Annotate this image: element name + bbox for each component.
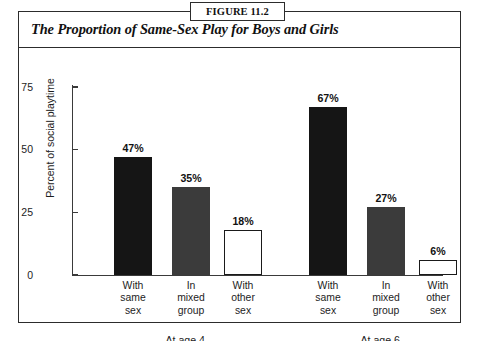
x-axis-category-label: Inmixedgroup	[161, 280, 221, 317]
x-axis-category-label: Withothersex	[408, 280, 468, 317]
bar	[367, 207, 405, 275]
x-axis-category-label: Withothersex	[213, 280, 273, 317]
x-axis-category-label-line: other	[213, 292, 273, 304]
x-axis-category-label-line: sex	[298, 305, 358, 317]
x-axis-group-label-text: At age 4	[165, 334, 204, 341]
x-axis-category-label: Withsamesex	[103, 280, 163, 317]
x-axis-category-label-line: With	[103, 280, 163, 292]
bars-layer: 47%35%18%67%27%6%	[19, 48, 462, 276]
bar-value-label: 35%	[161, 173, 221, 184]
x-axis-category-label-line: sex	[213, 305, 273, 317]
bar-value-label: 18%	[213, 216, 273, 227]
x-axis-category-label-line: other	[408, 292, 468, 304]
bar-value-label: 47%	[103, 143, 163, 154]
x-axis-category-label-line: same	[298, 292, 358, 304]
x-axis-category-label-line: sex	[103, 305, 163, 317]
bar	[224, 230, 262, 275]
bar	[172, 187, 210, 275]
bar	[309, 107, 347, 275]
x-axis-category-label-line: group	[161, 305, 221, 317]
bar-value-label: 6%	[408, 246, 468, 257]
x-axis-category-label: Withsamesex	[298, 280, 358, 317]
x-axis-category-label-line: group	[356, 305, 416, 317]
x-axis-category-label-line: With	[213, 280, 273, 292]
figure-number-label: FIGURE 11.2	[206, 6, 269, 17]
figure-frame: The Proportion of Same-Sex Play for Boys…	[18, 11, 461, 323]
x-axis-category-label-line: With	[298, 280, 358, 292]
x-axis-group-label: At age 412	[113, 334, 263, 341]
bar-value-label: 27%	[356, 193, 416, 204]
page-title: The Proportion of Same-Sex Play for Boys…	[19, 21, 339, 38]
x-axis-category-label: Inmixedgroup	[356, 280, 416, 317]
x-axis-category-label-line: same	[103, 292, 163, 304]
x-axis-category-label-line: In	[356, 280, 416, 292]
x-axis-category-label-line: sex	[408, 305, 468, 317]
plot-region: Percent of social playtime 0255075 47%35…	[19, 48, 462, 322]
x-axis-category-label-line: mixed	[161, 292, 221, 304]
bar	[114, 157, 152, 275]
figure-number-tab: FIGURE 11.2	[190, 2, 285, 21]
bar-value-label: 67%	[298, 93, 358, 104]
x-axis-category-label-line: In	[161, 280, 221, 292]
x-axis-group-label: At age 612	[308, 334, 458, 341]
x-axis-group-label-text: At age 6	[360, 334, 399, 341]
figure-root: The Proportion of Same-Sex Play for Boys…	[0, 0, 477, 341]
x-axis-category-label-line: mixed	[356, 292, 416, 304]
x-axis-category-label-line: With	[408, 280, 468, 292]
bar	[419, 260, 457, 275]
